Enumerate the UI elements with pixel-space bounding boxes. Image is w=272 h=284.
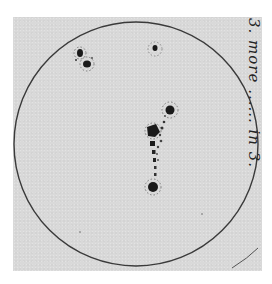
sunspot-group-upper-left: [74, 47, 94, 71]
sunspot-chain-group: [145, 102, 178, 195]
stray-dot: [201, 213, 203, 215]
handwritten-annotation: 3. more ...... in 3.: [243, 18, 263, 268]
stray-dot: [79, 231, 81, 233]
solar-disk-outline: [14, 22, 258, 266]
sunspot-drawing: [0, 0, 272, 284]
sunspot-single-top: [148, 42, 162, 56]
